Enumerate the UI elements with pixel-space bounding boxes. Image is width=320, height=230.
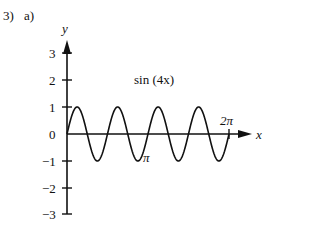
y-axis-arrow-icon [63,40,71,54]
ytick-1: 1 [49,101,56,114]
y-axis-label: y [62,22,68,35]
chart-title: sin (4x) [134,73,174,86]
x-axis-label: x [256,128,262,141]
ytick-0: 0 [49,128,56,141]
ytick-neg1: −1 [42,155,56,168]
ytick-2: 2 [49,74,56,87]
pi-label: π [143,151,150,164]
two-pi-label: 2π [220,114,233,127]
x-axis-arrow-icon [238,130,252,138]
ytick-neg2: −2 [42,182,56,195]
ytick-neg3: −3 [42,208,56,221]
ytick-3: 3 [49,47,56,60]
